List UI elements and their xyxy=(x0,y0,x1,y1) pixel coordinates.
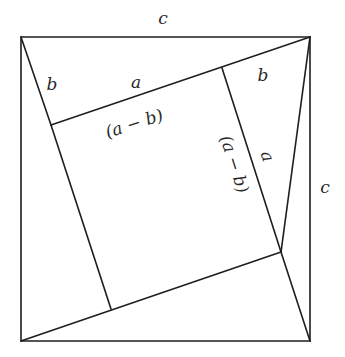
label-top-a: a xyxy=(131,72,141,92)
label-right-c: c xyxy=(320,177,330,197)
label-right-b: b xyxy=(258,65,269,85)
label-top-c: c xyxy=(158,8,168,28)
background xyxy=(0,0,345,357)
pythagorean-dissection-diagram: c c b a b (a − b) (a − b) a xyxy=(0,0,345,357)
label-left-b: b xyxy=(47,74,58,94)
